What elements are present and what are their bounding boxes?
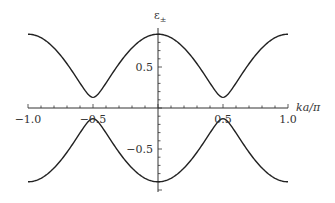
- x-tick-label: −1.0: [15, 113, 42, 126]
- y-axis-title: ε±: [154, 9, 166, 24]
- x-tick-label: 1.0: [279, 113, 297, 126]
- band-structure-chart: −1.0 −0.5 0.5 1.0 0.5 −0.5 ka/π ε±: [0, 0, 335, 203]
- x-tick-label: −0.5: [80, 113, 107, 126]
- x-axis-title: ka/π: [296, 101, 321, 114]
- y-tick-label: −0.5: [126, 143, 153, 156]
- x-tick-label: 0.5: [214, 113, 232, 126]
- y-tick-label: 0.5: [136, 61, 154, 74]
